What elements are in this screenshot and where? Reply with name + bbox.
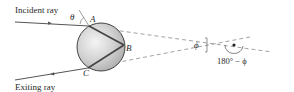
incident-ray-line (15, 22, 89, 26)
theta-arc (80, 17, 84, 24)
exiting-ray-label: Exiting ray (15, 82, 56, 92)
raindrop-diagram: Incident ray Exiting ray θ A B C ϕ 180° … (0, 0, 294, 92)
normal-line-at-a (79, 10, 89, 26)
point-a-label: A (89, 14, 96, 24)
vertex-dot (232, 43, 235, 46)
phi-bracket (205, 38, 207, 52)
incident-ray-label: Incident ray (15, 5, 59, 15)
theta-label: θ (70, 12, 75, 22)
raindrop-sphere (77, 23, 125, 71)
point-c-label: C (83, 68, 90, 78)
supplementary-angle-label: 180° − ϕ (217, 56, 247, 66)
phi-label: ϕ (194, 40, 199, 50)
point-b-label: B (126, 43, 132, 53)
